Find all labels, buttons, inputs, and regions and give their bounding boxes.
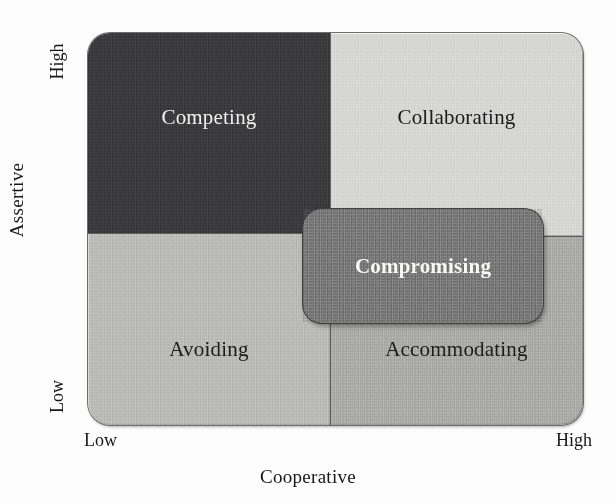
conflict-mode-matrix-figure: Assertive High Low Low High Cooperative … <box>0 0 616 504</box>
y-axis-tick-high: High <box>42 30 72 92</box>
y-axis-tick-high-text: High <box>47 43 68 79</box>
y-axis-tick-low-text: Low <box>47 380 68 413</box>
quadrant-competing: Competing <box>88 33 330 233</box>
horizontal-divider-left <box>88 233 330 234</box>
y-axis-title-text: Assertive <box>6 163 28 237</box>
x-axis-tick-low: Low <box>84 430 117 451</box>
quadrant-compromising-label: Compromising <box>355 254 491 279</box>
quadrant-collaborating: Collaborating <box>330 33 583 236</box>
x-axis-tick-high: High <box>556 430 592 451</box>
quadrant-accommodating-label: Accommodating <box>385 337 528 362</box>
print-grain-texture <box>88 233 330 425</box>
matrix-frame: Competing Collaborating Avoiding Accommo… <box>88 33 583 425</box>
y-axis-title: Assertive <box>0 0 34 400</box>
quadrant-competing-label: Competing <box>161 105 256 130</box>
print-grain-texture <box>330 33 583 236</box>
quadrant-compromising: Compromising <box>303 209 543 323</box>
print-grain-texture <box>88 33 330 233</box>
quadrant-avoiding-label: Avoiding <box>169 337 248 362</box>
quadrant-collaborating-label: Collaborating <box>397 105 515 130</box>
quadrant-avoiding: Avoiding <box>88 233 330 425</box>
x-axis-title: Cooperative <box>0 466 616 488</box>
y-axis-tick-low: Low <box>42 366 72 426</box>
